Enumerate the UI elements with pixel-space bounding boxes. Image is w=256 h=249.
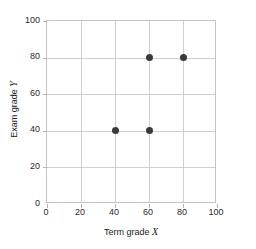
y-axis-tick [43,94,47,95]
x-axis-tick-label: 100 [201,207,231,218]
y-axis-tick [43,21,47,22]
gridline-horizontal [47,58,215,59]
data-point [146,54,153,61]
x-axis-title: Term grade X [46,226,216,237]
gridline-vertical [81,21,82,202]
x-axis-title-text: Term grade [104,227,150,237]
x-axis-tick-label: 60 [133,207,163,218]
plot-area [46,20,216,203]
x-axis-tick-label: 40 [99,207,129,218]
gridline-vertical [115,21,116,202]
y-axis-tick [43,131,47,132]
data-point [146,127,153,134]
data-point [112,127,119,134]
x-axis-tick-label: 80 [167,207,197,218]
x-axis-tick-label: 0 [31,207,61,218]
y-axis-tick [43,58,47,59]
y-axis-tick-label: 0 [6,198,40,209]
scatter-plot-figure: 020406080100020406080100 Term grade X Ex… [0,0,256,249]
x-axis-variable: X [152,226,158,237]
y-axis-variable: Y [8,81,19,87]
gridline-horizontal [47,167,215,168]
gridline-horizontal [47,94,215,95]
gridline-vertical [183,21,184,202]
y-axis-title-text: Exam grade [9,89,19,138]
y-axis-tick [43,167,47,168]
y-axis-title: Exam grade Y [8,55,19,165]
gridline-vertical [149,21,150,202]
gridline-horizontal [47,131,215,132]
data-point [180,54,187,61]
x-axis-tick-label: 20 [65,207,95,218]
y-axis-tick-label: 100 [6,15,40,26]
